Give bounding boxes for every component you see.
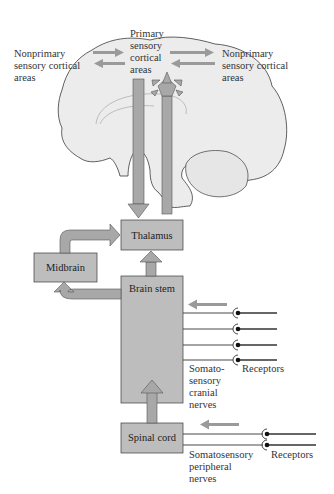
brainstem-to-midbrain-arrow [54, 282, 121, 299]
midbrain-label: Midbrain [46, 262, 86, 273]
cerebellum [186, 151, 248, 197]
midbrain-to-thalamus-arrow [60, 224, 120, 253]
sensory-pathway-diagram: Primary sensory cortical areas Nonprimar… [0, 0, 334, 494]
thalamus-label: Thalamus [131, 230, 172, 241]
input-direction-arrow-peripheral [200, 420, 239, 430]
receptors-cranial-label: Receptors [242, 363, 284, 374]
brainstem-to-thalamus-arrow [140, 251, 162, 276]
cranial-receptor-endings [233, 308, 240, 365]
peripheral-nerve-lines [183, 434, 316, 445]
spinal-cord-label: Spinal cord [128, 432, 177, 443]
receptors-peripheral-label: Receptors [271, 449, 313, 460]
cranial-nerves-label: Somato- sensory cranial nerves [189, 363, 227, 410]
peripheral-receptor-endings [262, 429, 269, 450]
peripheral-nerves-label: Somatosensory peripheral nerves [189, 449, 256, 484]
input-direction-arrow-cranial [188, 300, 227, 310]
cranial-nerve-lines [183, 313, 277, 360]
brain-stem-label: Brain stem [129, 283, 175, 294]
